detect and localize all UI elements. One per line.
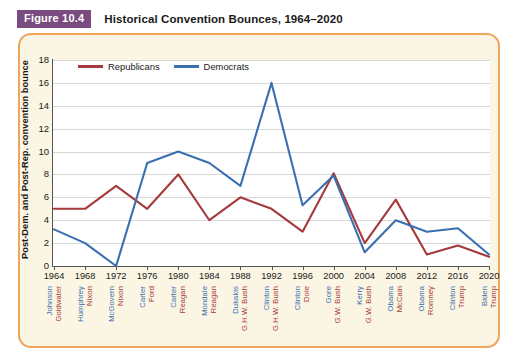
candidate-name-democrat: McGovern (108, 286, 116, 322)
x-tick-mark (54, 266, 55, 270)
candidate-name-democrat: Clinton (294, 286, 302, 310)
legend-label-democrats: Democrats (204, 62, 249, 71)
x-tick-mark (85, 266, 86, 270)
candidate-name-democrat: Carter (170, 286, 178, 308)
candidate-name-democrat: Carter (139, 286, 147, 308)
x-tick-label: 1996 (288, 272, 318, 281)
candidate-name-democrat: Clinton (263, 286, 271, 310)
y-tick-label: 8 (31, 169, 49, 179)
candidate-name-democrat: Johnson (46, 286, 54, 315)
x-tick-label: 2000 (319, 272, 349, 281)
y-tick-label: 14 (31, 101, 49, 111)
figure-number-badge: Figure 10.4 (17, 10, 91, 28)
x-tick-label: 2016 (443, 272, 473, 281)
y-tick-label: 6 (31, 192, 49, 202)
y-tick-label: 4 (31, 215, 49, 225)
x-tick-mark (334, 266, 335, 270)
x-tick-mark (396, 266, 397, 270)
candidate-name-columns: JohnsonGoldwaterHumphreyNixonMcGovernNix… (53, 286, 490, 346)
y-axis-title: Post-Dem. and Post-Rep. convention bounc… (18, 52, 32, 267)
chart-legend: Republicans Democrats (78, 62, 249, 71)
x-tick-label: 2008 (381, 272, 411, 281)
legend-swatch-democrats (174, 65, 199, 68)
y-tick-label: 10 (31, 147, 49, 157)
x-tick-mark (240, 266, 241, 270)
candidate-name-democrat: Humphrey (77, 286, 85, 322)
legend-swatch-republicans (78, 65, 103, 68)
x-tick-mark (178, 266, 179, 270)
candidate-name-democrat: Mondale (201, 286, 209, 316)
x-tick-label: 1984 (194, 272, 224, 281)
series-lines (53, 60, 490, 266)
y-tick-label: 2 (31, 238, 49, 248)
candidate-name-democrat: Biden (481, 286, 489, 306)
x-tick-label: 1972 (101, 272, 131, 281)
figure-header: Figure 10.4 Historical Convention Bounce… (17, 10, 343, 28)
candidate-name-democrat: Kerry (356, 286, 364, 305)
series-line-democrats (54, 83, 489, 266)
x-tick-mark (147, 266, 148, 270)
candidate-name-democrat: Dukakis (232, 286, 240, 314)
x-tick-mark (489, 266, 490, 270)
y-tick-label: 12 (31, 124, 49, 134)
figure-title: Historical Convention Bounces, 1964–2020 (104, 13, 343, 25)
x-tick-mark (303, 266, 304, 270)
x-tick-label: 1988 (225, 272, 255, 281)
candidate-name-republican: Trump (490, 286, 498, 308)
x-tick-mark (209, 266, 210, 270)
y-tick-label: 18 (31, 55, 49, 65)
x-tick-label: 2004 (350, 272, 380, 281)
x-tick-label: 2020 (474, 272, 504, 281)
x-tick-label: 1992 (257, 272, 287, 281)
x-tick-mark (365, 266, 366, 270)
y-tick-label: 0 (31, 261, 49, 271)
y-tick-label: 16 (31, 78, 49, 88)
legend-item-republicans: Republicans (78, 62, 160, 71)
candidate-name-democrat: Gore (325, 286, 333, 303)
x-tick-label: 2012 (412, 272, 442, 281)
figure-root: Figure 10.4 Historical Convention Bounce… (0, 0, 518, 361)
x-tick-mark (272, 266, 273, 270)
x-tick-mark (427, 266, 428, 270)
x-tick-label: 1968 (70, 272, 100, 281)
x-tick-mark (458, 266, 459, 270)
x-tick-label: 1976 (132, 272, 162, 281)
x-tick-label: 1980 (163, 272, 193, 281)
plot-area: 181614121086420 196419681972197619801984… (53, 60, 490, 266)
legend-label-republicans: Republicans (108, 62, 160, 71)
x-tick-label: 1964 (39, 272, 69, 281)
legend-item-democrats: Democrats (174, 62, 249, 71)
series-line-republicans (54, 173, 489, 257)
candidate-pair-2020: BidenTrump (459, 286, 518, 344)
